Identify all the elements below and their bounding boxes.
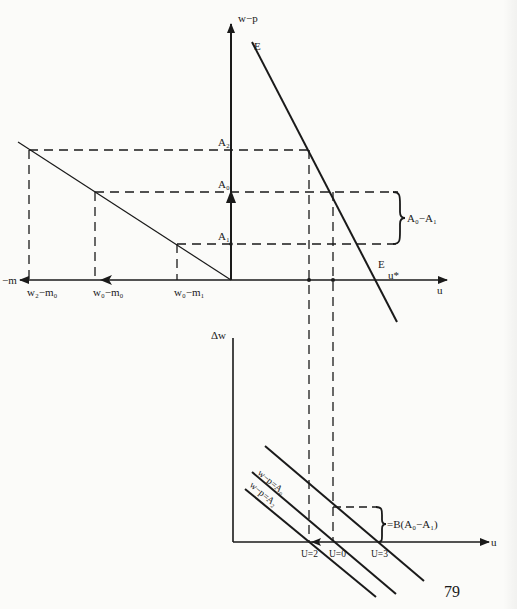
phillips-line-a2	[245, 489, 376, 597]
upper-y-axis-label: w−p	[238, 12, 258, 24]
upper-x-axis-label: u	[437, 284, 443, 296]
macro-labor-market-diagram: w−p E E u* u −m A₂ A₀ A₁ w₂−m₀ w₀−m₀ w₀−…	[0, 0, 517, 609]
brace-label-a0-a1: A₀−A₁	[407, 212, 437, 224]
brace-b-label: =B(A₀−A₁)	[387, 518, 438, 531]
neg-x-axis-label: −m	[2, 274, 17, 286]
page-edge-shadow	[503, 0, 517, 609]
label-a2: A₂	[218, 136, 230, 148]
tick-u3: U=3	[371, 549, 388, 559]
lower-x-axis-label: u	[491, 536, 497, 548]
tick-u0: U=0	[329, 549, 346, 559]
label-a0: A₀	[218, 178, 230, 190]
tick-w0-m1: w₀−m₁	[174, 286, 205, 298]
tick-w2-m0: w₂−m₀	[27, 286, 58, 298]
dot-u0	[331, 278, 335, 282]
phillips-line-top	[265, 446, 424, 581]
u-star-label: u*	[388, 269, 399, 281]
e-label-bottom: E	[378, 258, 385, 270]
lower-panel: Δw u =B(A₀−A₁) w−p=A₀ w−p=A₂ U=2 U=0 U=3	[211, 329, 497, 597]
brace-b	[376, 507, 386, 542]
dot-a1	[229, 242, 233, 246]
m-line	[18, 142, 231, 280]
upper-panel: w−p E E u* u −m A₂ A₀ A₁ w₂−m₀ w₀−m₀ w₀−…	[2, 12, 447, 541]
brace-a0-a1	[393, 192, 405, 244]
tick-u2: U=2	[301, 549, 318, 559]
e-label-top: E	[254, 40, 261, 52]
dot-u2	[307, 278, 311, 282]
lower-y-axis-label: Δw	[211, 329, 226, 341]
label-a1: A₁	[218, 230, 230, 242]
tick-w0-m0: w₀−m₀	[93, 286, 124, 298]
page-number: 79	[444, 583, 460, 601]
